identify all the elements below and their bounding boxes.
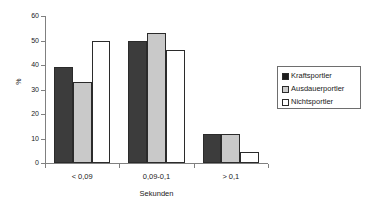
y-tick-mark <box>41 41 45 42</box>
x-axis-title: Sekunden <box>45 189 268 198</box>
y-tick-mark <box>41 114 45 115</box>
y-axis-title: % <box>15 70 22 94</box>
x-tick-mark <box>268 164 269 168</box>
legend: Kraftsportler Ausdauerportler Nichtsport… <box>277 66 361 109</box>
y-tick-label: 10 <box>23 135 39 143</box>
bar-ausdauerportler-2 <box>221 134 240 163</box>
y-tick-label: 20 <box>23 110 39 118</box>
legend-label: Kraftsportler <box>291 72 332 80</box>
x-tick-mark <box>45 164 46 168</box>
y-tick-mark <box>41 139 45 140</box>
x-tick-label: > 0,1 <box>194 172 268 181</box>
legend-label: Nichtsportler <box>291 98 333 106</box>
legend-swatch-icon <box>282 73 289 80</box>
legend-label: Ausdauerportler <box>291 85 344 93</box>
bar-nichtsportler-0 <box>92 41 111 164</box>
x-tick-mark <box>194 164 195 168</box>
bar-kraftsportler-1 <box>128 41 147 164</box>
y-tick-label: 0 <box>23 159 39 167</box>
x-tick-mark <box>119 164 120 168</box>
y-axis-line <box>45 16 46 164</box>
legend-swatch-icon <box>282 99 289 106</box>
legend-swatch-icon <box>282 86 289 93</box>
y-tick-label: 50 <box>23 37 39 45</box>
y-tick-label: 30 <box>23 86 39 94</box>
x-axis-line <box>45 163 268 164</box>
y-tick-mark <box>41 90 45 91</box>
x-tick-label: 0,09-0,1 <box>119 172 193 181</box>
y-tick-label: 40 <box>23 61 39 69</box>
bar-nichtsportler-2 <box>240 152 259 163</box>
bar-ausdauerportler-0 <box>73 82 92 163</box>
legend-item-kraftsportler: Kraftsportler <box>282 70 356 82</box>
legend-item-nichtsportler: Nichtsportler <box>282 96 356 108</box>
bar-kraftsportler-0 <box>54 67 73 163</box>
bar-chart: % 0102030405060 < 0,090,09-0,1> 0,1 Seku… <box>0 0 371 203</box>
bar-ausdauerportler-1 <box>147 33 166 163</box>
legend-item-ausdauerportler: Ausdauerportler <box>282 83 356 95</box>
y-tick-mark <box>41 16 45 17</box>
bar-kraftsportler-2 <box>203 134 222 163</box>
x-tick-label: < 0,09 <box>45 172 119 181</box>
bar-nichtsportler-1 <box>166 50 185 163</box>
y-tick-label: 60 <box>23 12 39 20</box>
y-tick-mark <box>41 65 45 66</box>
